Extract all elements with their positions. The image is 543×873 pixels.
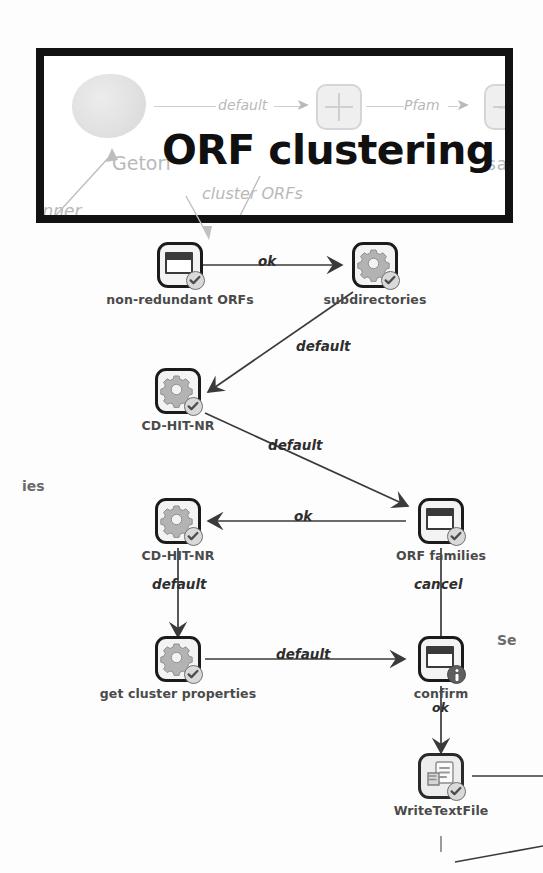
node-cd-hit-nr-2[interactable]: CD-HIT-NR: [155, 498, 201, 544]
node-confirm[interactable]: confirm: [418, 636, 464, 682]
window-icon: [426, 646, 454, 668]
check-badge: [447, 527, 466, 546]
window-icon: [426, 508, 454, 530]
page-title: ORF clustering: [162, 126, 494, 174]
edge-default-2: [205, 413, 408, 506]
check-badge: [447, 782, 466, 801]
node-label: WriteTextFile: [394, 803, 489, 818]
ghost-arrow-2-icon: ➤: [456, 95, 469, 114]
edge-label-default-3: default: [152, 576, 207, 592]
ghost-edge-label-default: default: [218, 97, 267, 113]
check-badge: [184, 397, 203, 416]
edge-label-ok-3: ok: [432, 700, 449, 715]
tree-node-icon: [316, 84, 362, 130]
edge-label-ok-1: ok: [258, 253, 276, 269]
node-label: confirm: [414, 686, 469, 701]
ghost-label-anner: anner: [36, 201, 81, 221]
edge-label-default-4: default: [276, 646, 331, 662]
edge-label-default-2: default: [268, 437, 323, 453]
node-subdirectories[interactable]: subdirectories: [352, 242, 398, 288]
ghost-arrow-1-icon: ➤: [296, 95, 309, 114]
info-stem: [455, 674, 458, 681]
node-write-text-file[interactable]: WriteTextFile: [418, 753, 464, 799]
edge-label-default-1: default: [296, 338, 351, 354]
stray-text-ies: ies: [22, 478, 45, 494]
node-label: get cluster properties: [100, 686, 256, 701]
blob-node-icon: [72, 74, 146, 138]
zoom-banner: default ➤ Pfam ➤ Getorf anner cluster OR…: [36, 48, 513, 223]
check-badge: [381, 271, 400, 290]
edge-stub-bottom: [455, 846, 543, 862]
node-cd-hit-nr-1[interactable]: CD-HIT-NR: [155, 368, 201, 414]
edge-label-ok-2: ok: [294, 508, 312, 524]
node-label: ORF families: [396, 548, 486, 563]
node-get-cluster-properties[interactable]: get cluster properties: [155, 636, 201, 682]
node-orf-families[interactable]: ORF families: [418, 498, 464, 544]
ghost-edge-2: [366, 106, 404, 107]
node-label: subdirectories: [324, 292, 427, 307]
doc-node-icon: [484, 84, 513, 130]
ghost-edge-label-pfam: Pfam: [404, 97, 440, 113]
info-badge: [447, 665, 466, 684]
workflow-canvas: ies Se default ➤ Pfam ➤ Getorf anner clu…: [0, 0, 543, 873]
check-badge: [184, 665, 203, 684]
edge-label-cancel: cancel: [414, 576, 463, 592]
check-badge: [184, 527, 203, 546]
ghost-edge-1: [154, 106, 216, 107]
ghost-label-cluster-orfs: cluster ORFs: [202, 184, 303, 203]
stray-text-se: Se: [497, 632, 517, 648]
zoom-banner-content: default ➤ Pfam ➤ Getorf anner cluster OR…: [44, 56, 505, 215]
check-badge: [186, 271, 205, 290]
node-non-redundant-orfs[interactable]: non-redundant ORFs: [157, 242, 203, 288]
node-label: CD-HIT-NR: [142, 418, 215, 433]
info-dot: [455, 669, 458, 672]
node-label: non-redundant ORFs: [106, 292, 254, 307]
node-label: CD-HIT-NR: [142, 548, 215, 563]
window-icon: [165, 252, 193, 274]
